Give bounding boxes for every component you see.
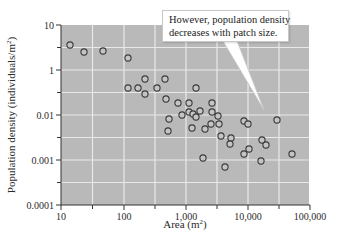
data-point	[215, 113, 221, 119]
data-point	[189, 125, 195, 131]
data-point	[289, 151, 295, 157]
data-point	[274, 117, 280, 123]
y-axis-title-tail: )	[5, 37, 17, 41]
data-point	[193, 85, 199, 91]
annotation-line-1: However, population density	[169, 14, 288, 27]
x-tick-label: 100	[117, 211, 132, 222]
x-tick-label: 10	[56, 211, 66, 222]
data-point	[186, 100, 192, 106]
annotation-callout: However, population density decreases wi…	[162, 10, 289, 42]
y-axis-ticks: 1010.010.0010.0001	[27, 20, 62, 211]
x-axis-title: Area (m2)	[163, 218, 207, 230]
data-point	[166, 116, 172, 122]
y-tick-label: 0.0001	[27, 200, 55, 211]
annotation-line-2: decreases with patch size.	[169, 27, 288, 40]
data-point	[81, 49, 87, 55]
data-point	[222, 164, 228, 170]
data-point	[209, 109, 215, 115]
x-axis-title-text: Area (m	[163, 218, 199, 230]
x-axis-title-tail: )	[203, 218, 207, 230]
y-tick-label: 0.001	[32, 155, 55, 166]
y-axis-title-text: Population density (individuals/m	[5, 44, 17, 193]
data-point	[142, 76, 148, 82]
y-tick-label: 10	[44, 20, 54, 31]
data-point	[193, 114, 199, 120]
data-point	[125, 55, 131, 61]
data-point	[162, 76, 168, 82]
y-tick-label: 1	[49, 65, 54, 76]
data-point	[228, 135, 234, 141]
data-point	[227, 141, 233, 147]
data-point	[67, 42, 73, 48]
data-point	[165, 128, 171, 134]
data-point	[179, 112, 185, 118]
data-point	[202, 126, 208, 132]
data-point	[175, 100, 181, 106]
data-point	[218, 133, 224, 139]
data-point	[245, 121, 251, 127]
y-tick-label: 0.01	[37, 110, 55, 121]
data-point	[197, 108, 203, 114]
data-point	[208, 121, 214, 127]
data-point	[216, 121, 222, 127]
data-point	[246, 146, 252, 152]
data-point	[209, 100, 215, 106]
data-point	[263, 142, 269, 148]
y-axis-title: Population density (individuals/m2)	[0, 25, 22, 205]
data-point	[100, 48, 106, 54]
data-point	[154, 85, 160, 91]
x-tick-label: 100,000	[294, 211, 327, 222]
data-point	[135, 85, 141, 91]
data-point	[200, 155, 206, 161]
data-point	[142, 91, 148, 97]
data-point	[258, 158, 264, 164]
data-point	[163, 96, 169, 102]
y-axis-title-sup: 2	[5, 41, 13, 45]
data-point	[125, 85, 131, 91]
data-point	[241, 151, 247, 157]
x-tick-label: 10,000	[234, 211, 262, 222]
